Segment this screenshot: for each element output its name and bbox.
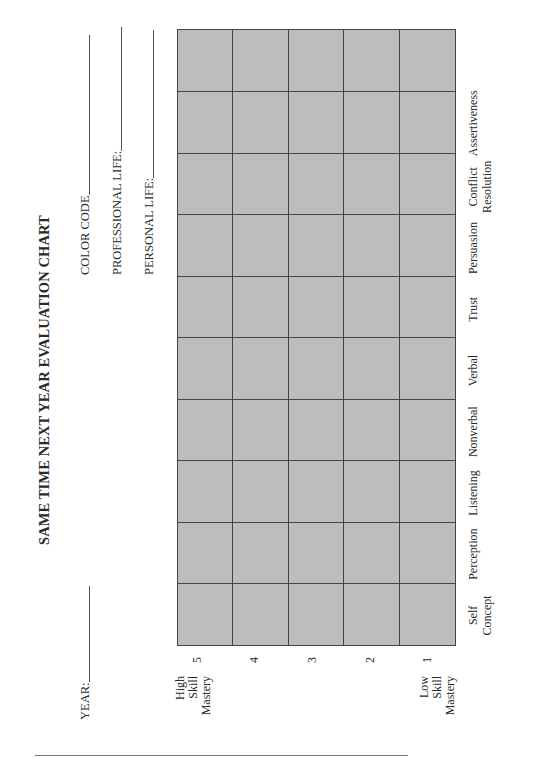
grid-cell[interactable] (344, 153, 399, 215)
color-code-blank-line[interactable] (88, 35, 90, 195)
level-2-label: 2 (363, 650, 378, 670)
color-code-field[interactable]: COLOR CODE (78, 35, 93, 275)
grid-cell[interactable] (289, 276, 344, 338)
grid-cell[interactable] (400, 522, 455, 584)
category-label: Perception (466, 524, 480, 585)
low-skill-mastery-label: Low Skill Mastery (418, 676, 457, 736)
grid-cell[interactable] (233, 92, 288, 154)
category-label: Trust (466, 279, 480, 340)
grid-cell[interactable] (289, 92, 344, 154)
grid-cell[interactable] (233, 522, 288, 584)
professional-life-blank-line[interactable] (120, 27, 122, 151)
grid-cell[interactable] (400, 338, 455, 400)
grid-cell[interactable] (289, 461, 344, 523)
grid-cell[interactable] (178, 30, 233, 92)
grid-cell[interactable] (344, 461, 399, 523)
grid-cell[interactable] (400, 30, 455, 92)
grid-cell[interactable] (289, 584, 344, 646)
grid-cell[interactable] (289, 338, 344, 400)
color-code-label: COLOR CODE (78, 195, 93, 275)
evaluation-chart-page: SAME TIME NEXT YEAR EVALUATION CHART YEA… (0, 0, 547, 760)
category-label-2: Concept (480, 585, 494, 646)
personal-life-blank-line[interactable] (152, 30, 154, 178)
grid-cell[interactable] (400, 276, 455, 338)
category-label: Assertiveness (466, 90, 480, 156)
professional-life-field[interactable]: PROFESSIONAL LIFE: (110, 27, 125, 275)
category-assertiveness: Assertiveness (466, 90, 494, 156)
high-skill-mastery-label: High Skill Mastery (174, 676, 213, 736)
category-persuasion: Persuasion (466, 217, 494, 278)
grid-cell[interactable] (233, 461, 288, 523)
grid-cell[interactable] (178, 522, 233, 584)
category-listening: Listening (466, 462, 494, 523)
grid-cell[interactable] (344, 30, 399, 92)
category-label: Verbal (466, 340, 480, 401)
category-trust: Trust (466, 279, 494, 340)
grid-cell[interactable] (400, 461, 455, 523)
category-label: Persuasion (466, 217, 480, 278)
evaluation-grid (177, 29, 456, 646)
personal-life-field[interactable]: PERSONAL LIFE: (142, 30, 157, 275)
grid-cell[interactable] (178, 276, 233, 338)
category-perception: Perception (466, 524, 494, 585)
high-label-line-3: Mastery (200, 676, 213, 736)
category-label: Conflict (466, 156, 480, 217)
low-label-line-3: Mastery (444, 676, 457, 736)
level-1-label: 1 (420, 650, 435, 670)
grid-cell[interactable] (400, 215, 455, 277)
category-conflict-resolution: ConflictResolution (466, 156, 494, 217)
grid-cell[interactable] (344, 338, 399, 400)
grid-cell[interactable] (344, 399, 399, 461)
grid-cell[interactable] (178, 153, 233, 215)
category-self-concept: SelfConcept (466, 585, 494, 646)
year-label: YEAR: (78, 683, 93, 721)
year-field[interactable]: YEAR: (78, 587, 93, 721)
grid-cell[interactable] (233, 399, 288, 461)
category-verbal: Verbal (466, 340, 494, 401)
personal-life-label: PERSONAL LIFE: (142, 178, 157, 275)
grid-cell[interactable] (289, 399, 344, 461)
grid-cell[interactable] (289, 30, 344, 92)
grid-cell[interactable] (400, 153, 455, 215)
grid-cell[interactable] (289, 215, 344, 277)
category-label: Listening (466, 462, 480, 523)
grid-cell[interactable] (400, 92, 455, 154)
category-label-2: Resolution (480, 156, 494, 217)
category-nonverbal: Nonverbal (466, 401, 494, 462)
grid-cell[interactable] (178, 338, 233, 400)
grid-cell[interactable] (344, 92, 399, 154)
skill-category-labels: SelfConcept Perception Listening Nonverb… (466, 29, 494, 646)
grid-cell[interactable] (344, 276, 399, 338)
grid-cell[interactable] (233, 215, 288, 277)
chart-title: SAME TIME NEXT YEAR EVALUATION CHART (36, 200, 53, 560)
grid-cell[interactable] (233, 153, 288, 215)
grid-cell[interactable] (344, 522, 399, 584)
grid-cell[interactable] (233, 276, 288, 338)
grid-cell[interactable] (178, 461, 233, 523)
page-rule-divider (35, 755, 408, 756)
grid-cell[interactable] (344, 215, 399, 277)
grid-cell[interactable] (289, 153, 344, 215)
level-5-label: 5 (190, 650, 205, 670)
grid-cell[interactable] (233, 30, 288, 92)
grid-cell[interactable] (344, 584, 399, 646)
grid-cell[interactable] (400, 584, 455, 646)
professional-life-label: PROFESSIONAL LIFE: (110, 151, 125, 275)
level-4-label: 4 (247, 650, 262, 670)
grid-cell[interactable] (289, 522, 344, 584)
grid-cell[interactable] (400, 399, 455, 461)
category-empty (466, 29, 494, 90)
grid-cell[interactable] (178, 92, 233, 154)
year-blank-line[interactable] (88, 587, 90, 683)
category-label: Self (466, 585, 480, 646)
category-label: Nonverbal (466, 401, 480, 462)
grid-cell[interactable] (233, 338, 288, 400)
level-3-label: 3 (305, 650, 320, 670)
grid-cell[interactable] (178, 399, 233, 461)
grid-cell[interactable] (178, 584, 233, 646)
grid-cell[interactable] (233, 584, 288, 646)
grid-cell[interactable] (178, 215, 233, 277)
